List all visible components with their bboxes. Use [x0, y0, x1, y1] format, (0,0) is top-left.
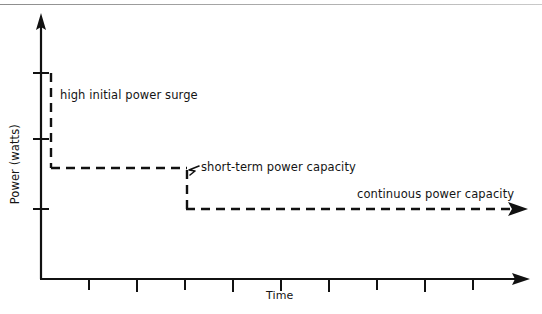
power-curve-chart	[0, 0, 542, 314]
x-axis-label: Time	[266, 290, 293, 302]
annotation-continuous-power-capacity: continuous power capacity	[357, 188, 514, 201]
annotation-high-initial-power-surge: high initial power surge	[60, 89, 198, 102]
short-term-leader-pointer	[189, 166, 199, 175]
annotation-short-term-power-capacity: short-term power capacity	[201, 161, 356, 174]
y-axis-label: Power (watts)	[9, 124, 22, 204]
continuous-line-arrowhead	[508, 202, 528, 216]
